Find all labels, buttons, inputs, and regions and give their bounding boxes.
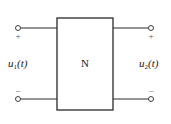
output-minus-sign: − [148,86,153,96]
input-voltage-label: u1(t) [8,57,28,71]
output-voltage-arg: (t) [148,57,159,70]
output-plus-sign: + [148,31,153,41]
output-minus-terminal [149,97,154,102]
input-voltage-arg: (t) [17,57,28,70]
two-port-diagram: N + − + − u1(t) u2(t) [0,0,171,124]
input-minus-terminal [16,97,21,102]
input-plus-sign: + [15,31,20,41]
network-label: N [81,57,89,69]
input-minus-sign: − [15,86,20,96]
output-plus-terminal [149,26,154,31]
input-plus-terminal [16,26,21,31]
output-voltage-label: u2(t) [139,57,159,71]
